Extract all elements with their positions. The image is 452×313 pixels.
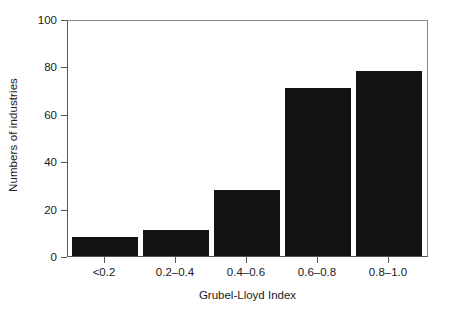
y-tick-label-100: 100 bbox=[17, 14, 57, 26]
y-tick-label-40: 40 bbox=[17, 156, 57, 168]
x-tick-mark-4 bbox=[388, 257, 389, 263]
x-tick-label-4: 0.8–1.0 bbox=[369, 266, 407, 278]
y-tick-label-60: 60 bbox=[17, 109, 57, 121]
y-tick-mark-0 bbox=[61, 257, 67, 258]
x-tick-label-3: 0.6–0.8 bbox=[298, 266, 336, 278]
bar-series bbox=[68, 21, 427, 256]
y-tick-label-0: 0 bbox=[17, 251, 57, 263]
y-axis-title: Numbers of industries bbox=[0, 0, 26, 270]
bar-2 bbox=[214, 190, 280, 256]
x-axis-title: Grubel-Lloyd Index bbox=[67, 289, 428, 301]
x-tick-label-2: 0.4–0.6 bbox=[227, 266, 265, 278]
y-axis-title-label: Numbers of industries bbox=[7, 78, 19, 192]
chart-screenshot: Numbers of industries 100 80 60 40 20 0 … bbox=[0, 0, 452, 313]
x-tick-mark-2 bbox=[246, 257, 247, 263]
bar-4 bbox=[356, 71, 422, 256]
bar-1 bbox=[143, 230, 209, 256]
y-tick-label-20: 20 bbox=[17, 204, 57, 216]
plot-area bbox=[67, 20, 428, 257]
x-tick-mark-1 bbox=[175, 257, 176, 263]
y-tick-label-80: 80 bbox=[17, 61, 57, 73]
x-tick-label-0: <0.2 bbox=[93, 266, 116, 278]
bar-0 bbox=[72, 237, 138, 256]
x-tick-label-1: 0.2–0.4 bbox=[156, 266, 194, 278]
x-tick-mark-3 bbox=[317, 257, 318, 263]
bar-3 bbox=[285, 88, 351, 256]
x-tick-mark-0 bbox=[104, 257, 105, 263]
